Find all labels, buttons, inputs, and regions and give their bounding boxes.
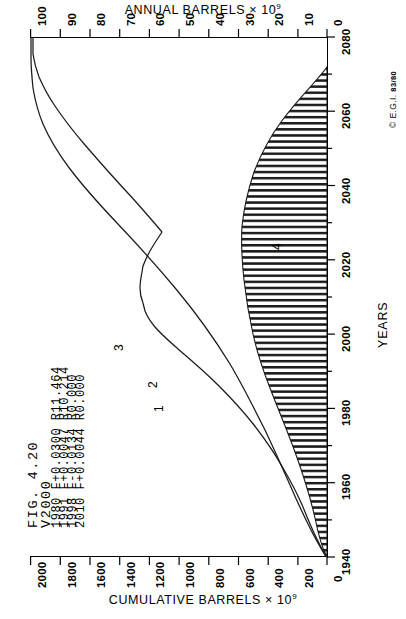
annual-tick-label-10: 10 [303,13,315,26]
cumulative-tick-label-0: 0 [332,575,344,582]
years-tick-label-1940: 1940 [340,549,352,575]
cumulative-curve-2 [140,232,162,303]
annotation-line-4: 2010 F+0.0044 R0.000 [74,374,88,528]
cumulative-tick-label-1400: 1400 [125,562,137,588]
cumulative-tick-label-600: 600 [244,568,256,588]
annual-tick-label-80: 80 [95,13,107,26]
cumulative-tick-label-800: 800 [214,568,226,588]
annual-production-area [242,67,327,557]
cumulative-tick-label-1000: 1000 [184,562,196,588]
years-tick-label-2000: 2000 [340,326,352,352]
curve-label-4: 4 [270,243,284,250]
figure-canvas: ANNUAL BARRELS × 109 CUMULATIVE BARRELS … [0,0,406,619]
copyright-notice: © E.G.I. 83/80 [388,71,398,128]
years-tick-label-1980: 1980 [340,400,352,426]
years-tick-label-2020: 2020 [340,252,352,278]
cumulative-tick-label-2000: 2000 [36,562,48,588]
annual-tick-label-50: 50 [184,13,196,26]
annual-tick-label-60: 60 [154,13,166,26]
years-tick-label-2040: 2040 [340,178,352,204]
cumulative-tick-label-400: 400 [273,568,285,588]
annual-tick-label-90: 90 [66,13,78,26]
years-axis-title: YEARS [376,302,390,348]
copyright-date: 83/80 [389,71,398,92]
cumulative-curve-2-continuation [33,38,162,232]
curve-label-3: 3 [112,344,126,351]
cumulative-tick-label-1600: 1600 [95,562,107,588]
annual-tick-label-40: 40 [214,13,226,26]
annual-tick-label-100: 100 [36,6,48,26]
years-axis-ticks [327,37,335,557]
years-tick-label-1960: 1960 [340,474,352,500]
cumulative-tick-label-200: 200 [303,568,315,588]
annual-tick-label-20: 20 [273,13,285,26]
years-tick-label-2060: 2060 [340,103,352,129]
cumulative-tick-label-1200: 1200 [154,562,166,588]
curve-label-1: 1 [152,405,166,412]
cumulative-tick-label-1800: 1800 [66,562,78,588]
copyright-symbol-text: © E.G.I. [388,94,398,128]
annual-axis-ticks [31,29,327,37]
curve-label-2: 2 [146,381,160,388]
annual-tick-label-70: 70 [125,13,137,26]
annual-tick-label-30: 30 [244,13,256,26]
annual-tick-label-0: 0 [332,19,344,26]
years-tick-label-2080: 2080 [340,29,352,55]
